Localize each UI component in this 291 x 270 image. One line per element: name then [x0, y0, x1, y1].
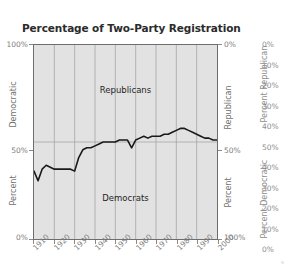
left-axis-tick-100: 100% — [0, 40, 28, 49]
right-axis-tick-mark — [218, 44, 222, 45]
outer-axis-tick-democratic: 30% — [262, 184, 290, 193]
x-axis-tick-label: 2000 — [216, 232, 236, 252]
outer-axis-tick-democratic: 20% — [262, 204, 290, 213]
left-axis-tick-0: 0% — [0, 233, 28, 242]
outer-axis-tick-democratic: 40% — [262, 163, 290, 172]
left-axis-tick-mark — [29, 44, 33, 45]
page-title: Percentage of Two-Party Registration — [22, 22, 222, 34]
outer-axis-tick-republican: 30% — [262, 102, 290, 111]
right-axis-title-percent: Percent — [224, 172, 233, 214]
outer-axis-tick-republican: 50% — [262, 143, 290, 152]
registration-line-series — [34, 45, 217, 239]
outer-axis-bottom-mark: › — [278, 258, 286, 266]
outer-axis-tick-republican: 40% — [262, 122, 290, 131]
left-axis-tick-mark — [29, 150, 33, 151]
region-label-democrats: Democrats — [102, 193, 148, 203]
left-axis-title-percent: Percent — [9, 170, 18, 212]
left-axis-tick-50: 50% — [0, 146, 28, 155]
secondary-axis-column: Percent Republican Percent Democratic 0%… — [248, 36, 291, 270]
left-axis-title-democratic: Democratic — [9, 80, 18, 130]
outer-axis-tick-republican: 0% — [262, 40, 290, 49]
right-axis-title-republican: Republican — [224, 83, 233, 133]
plot-area: Republicans Democrats — [33, 44, 218, 240]
right-axis-tick-mark — [218, 150, 222, 151]
chart-figure: Percentage of Two-Party Registration Rep… — [0, 0, 291, 270]
region-label-republicans: Republicans — [100, 85, 151, 95]
outer-axis-tick-democratic: 10% — [262, 225, 290, 234]
outer-axis-tick-republican: 20% — [262, 81, 290, 90]
outer-axis-tick-democratic: 0% — [262, 245, 290, 254]
outer-axis-tick-republican: 10% — [262, 61, 290, 70]
